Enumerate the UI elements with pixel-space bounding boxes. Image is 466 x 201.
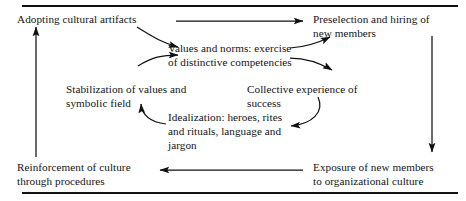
node-adopting-cultural-artifacts: Adopting cultural artifacts bbox=[17, 12, 136, 26]
bottom-horizontal-rule bbox=[22, 192, 458, 194]
node-idealization: Idealization: heroes, rites and rituals,… bbox=[168, 110, 282, 153]
culture-cycle-diagram: Adopting cultural artifacts Preselection… bbox=[0, 0, 466, 201]
node-stabilization-of-values: Stabilization of values and symbolic fie… bbox=[66, 82, 186, 110]
top-horizontal-rule bbox=[22, 5, 458, 7]
node-exposure-of-new-members: Exposure of new members to organizationa… bbox=[313, 160, 434, 188]
node-reinforcement-of-culture: Reinforcement of culture through procedu… bbox=[17, 160, 131, 188]
node-values-and-norms: Values and norms: exercise of distinctiv… bbox=[168, 41, 292, 69]
node-collective-experience-of-success: Collective experience of success bbox=[247, 82, 358, 110]
arrow-values-to-collective bbox=[290, 58, 332, 70]
node-preselection-and-hiring: Preselection and hiring of new members bbox=[313, 12, 430, 40]
